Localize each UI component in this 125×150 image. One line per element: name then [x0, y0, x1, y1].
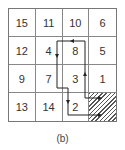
grid-cell: 8	[63, 37, 90, 65]
grid-cell: 9	[9, 65, 36, 93]
grid-cell: 11	[36, 9, 63, 37]
grid-cell: 7	[36, 65, 63, 93]
grid-cell: 3	[63, 65, 90, 93]
grid-cell: 12	[9, 37, 36, 65]
grid-cell: 2	[63, 93, 90, 121]
grid-cell: 5	[89, 37, 116, 65]
puzzle-grid: 15 11 10 6 12 4 8 5 9 7 3 1 13 14 2	[8, 8, 117, 122]
grid-cell: 4	[36, 37, 63, 65]
grid-cell: 15	[9, 9, 36, 37]
grid-cell: 1	[89, 65, 116, 93]
grid-cell: 10	[63, 9, 90, 37]
grid-cell: 13	[9, 93, 36, 121]
hatched-empty-cell	[89, 93, 116, 121]
grid-cell: 6	[89, 9, 116, 37]
grid-cell: 14	[36, 93, 63, 121]
figure-caption: (b)	[0, 133, 125, 144]
